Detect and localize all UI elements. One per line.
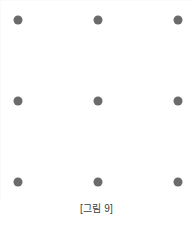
figure-caption: [그림 9] [0,202,193,215]
pattern-dot-r1c2[interactable] [94,16,103,25]
pattern-dot-r2c1[interactable] [14,97,23,106]
pattern-dot-grid[interactable] [0,0,193,200]
pattern-dot-r1c1[interactable] [14,16,23,25]
pattern-dot-r3c2[interactable] [94,178,103,187]
pattern-dot-r2c2[interactable] [94,97,103,106]
pattern-dot-r2c3[interactable] [174,97,183,106]
pattern-lock-figure: [그림 9] [0,0,193,229]
pattern-dot-r1c3[interactable] [174,16,183,25]
pattern-dot-r3c3[interactable] [174,178,183,187]
pattern-dot-r3c1[interactable] [14,178,23,187]
